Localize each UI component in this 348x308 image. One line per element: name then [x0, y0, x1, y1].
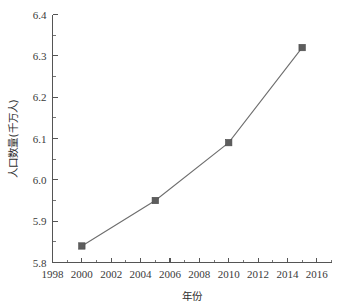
y-axis-title: 人口数量(千万人) [7, 99, 19, 177]
x-tick-label: 2010 [218, 268, 241, 280]
x-axis-title: 年份 [182, 290, 203, 302]
y-tick-label: 6.4 [33, 9, 47, 21]
x-tick-label: 2008 [188, 268, 211, 280]
y-tick-label: 5.9 [33, 215, 47, 227]
x-tick-label: 2006 [159, 268, 182, 280]
data-point-marker [152, 197, 158, 203]
chart-canvas: 5.85.96.06.16.26.36.4 199820002002200420… [0, 0, 348, 308]
y-tick-label: 6.0 [33, 174, 47, 186]
data-point-marker [226, 139, 232, 145]
y-tick-label: 6.2 [33, 91, 47, 103]
data-point-marker [299, 44, 305, 50]
x-tick-label: 2000 [71, 268, 94, 280]
x-tick-label: 2004 [130, 268, 153, 280]
population-line-chart: 5.85.96.06.16.26.36.4 199820002002200420… [0, 0, 348, 308]
y-tick-label: 6.1 [33, 133, 47, 145]
x-tick-label: 2016 [306, 268, 329, 280]
x-tick-label: 2014 [276, 268, 299, 280]
data-point-marker [79, 243, 85, 249]
y-tick-label: 6.3 [33, 50, 47, 62]
x-tick-label: 2012 [247, 268, 269, 280]
x-tick-label: 1998 [42, 268, 65, 280]
x-tick-label: 2002 [100, 268, 122, 280]
